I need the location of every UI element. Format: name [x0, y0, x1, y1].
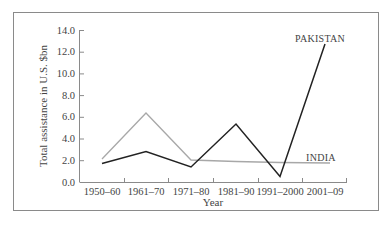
- y-tick-label: 0.0: [62, 177, 75, 188]
- x-axis-title: Year: [203, 196, 224, 208]
- series-line-india: [102, 113, 330, 163]
- line-chart: 0.0 2.0 4.0 6.0 8.0 10.0 12.0 14.0 1950–…: [0, 0, 391, 228]
- x-tick-label: 2001–09: [307, 186, 344, 197]
- y-tick-label: 14.0: [57, 25, 75, 36]
- y-tick-label: 6.0: [62, 111, 75, 122]
- x-tick-label: 1991–2000: [256, 186, 303, 197]
- y-tick-label: 8.0: [62, 90, 75, 101]
- y-tick-label: 10.0: [57, 68, 75, 79]
- y-tick-label: 4.0: [62, 133, 75, 144]
- series-label-india: INDIA: [306, 152, 336, 163]
- y-tick-label: 12.0: [57, 46, 75, 57]
- y-axis-title: Total assistance in U.S. $bn: [37, 44, 49, 167]
- y-tick-label: 2.0: [62, 155, 75, 166]
- x-axis: [80, 178, 348, 183]
- series-label-pakistan: PAKISTAN: [295, 33, 345, 44]
- x-tick-label: 1950–60: [84, 186, 121, 197]
- series-line-pakistan: [102, 44, 325, 177]
- y-axis: [80, 30, 85, 182]
- x-tick-label: 1961–70: [128, 186, 165, 197]
